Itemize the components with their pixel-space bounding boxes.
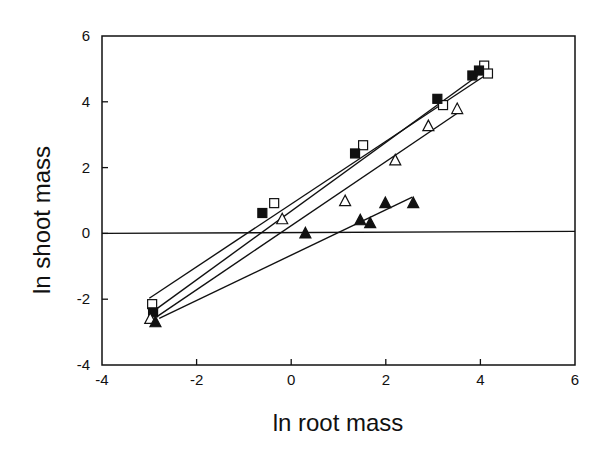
open-triangle-marker	[423, 120, 434, 130]
filled-square-marker	[351, 149, 360, 158]
x-tick-label: 6	[571, 371, 579, 388]
y-tick-label: 4	[82, 93, 90, 110]
y-tick-label: 2	[82, 159, 90, 176]
filled-square-marker	[474, 66, 483, 75]
regression-line	[149, 75, 485, 298]
filled-square-marker	[258, 209, 267, 218]
x-tick-label: -4	[95, 371, 108, 388]
x-tick-label: 2	[382, 371, 390, 388]
data-markers	[145, 61, 493, 327]
open-triangle-marker	[390, 154, 401, 165]
regression-line	[157, 112, 459, 316]
filled-triangle-marker	[380, 197, 391, 208]
x-tick-label: 4	[476, 371, 484, 388]
regression-lines	[149, 75, 485, 318]
chart: -4-20246 -4-20246 ln root mass ln shoot …	[0, 0, 613, 458]
y-tick-label: -2	[77, 290, 90, 307]
x-axis-label: ln root mass	[273, 409, 404, 436]
open-triangle-marker	[340, 195, 351, 206]
x-tick-label: -2	[190, 371, 203, 388]
x-tick-label: 0	[287, 371, 295, 388]
open-square-marker	[270, 199, 279, 208]
y-tick-label: 0	[82, 224, 90, 241]
y-tick-label: -4	[77, 356, 90, 373]
y-tick-label: 6	[82, 27, 90, 44]
open-square-marker	[483, 69, 492, 78]
regression-line	[155, 75, 479, 310]
y-axis-label: ln shoot mass	[28, 146, 55, 294]
y-axis-ticks: -4-20246	[77, 27, 108, 373]
plot-frame	[102, 36, 575, 365]
x-axis-ticks: -4-20246	[95, 359, 579, 388]
filled-square-marker	[433, 94, 442, 103]
open-triangle-marker	[452, 103, 463, 114]
